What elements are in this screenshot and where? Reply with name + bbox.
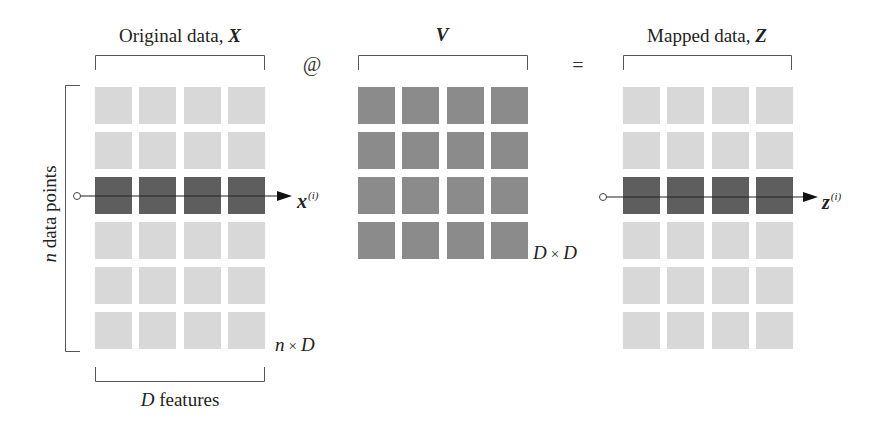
- matrix-v-dimension: D×D: [533, 242, 577, 265]
- z-row-vector-label: z(i): [822, 185, 841, 213]
- z-row-vector-sup: (i): [831, 190, 841, 202]
- dim-times: ×: [289, 338, 297, 354]
- dim-d1: D: [533, 242, 547, 263]
- matrix-v-symbol: V: [436, 24, 449, 45]
- matrix-x-title-text: Original data,: [119, 25, 228, 46]
- col-axis-var: D: [141, 389, 155, 410]
- matrix-v-title: V: [436, 24, 449, 46]
- matrix-x-title: Original data, X: [119, 25, 241, 47]
- row-axis-text: data points: [39, 165, 60, 253]
- matmul-operator: @: [303, 53, 321, 75]
- row-axis-var: n: [39, 253, 60, 263]
- row-axis-label: n data points: [39, 165, 61, 262]
- matrix-z-title: Mapped data, Z: [647, 25, 767, 47]
- x-row-vector-label: x(i): [297, 184, 318, 212]
- dim-n: n: [275, 334, 285, 355]
- matrix-z-title-text: Mapped data,: [647, 25, 755, 46]
- matrix-x-dimension: n×D: [275, 334, 315, 357]
- dim-d2: D: [563, 242, 577, 263]
- z-arrow-origin-icon: [600, 194, 607, 201]
- matrix-x-symbol: X: [228, 25, 241, 46]
- x-row-vector-sup: (i): [308, 189, 318, 201]
- matrix-z-symbol: Z: [755, 25, 767, 46]
- x-row-arrow: [74, 191, 293, 201]
- dim-times: ×: [551, 246, 559, 262]
- arrow-lines: [0, 0, 877, 426]
- x-row-vector: x: [297, 190, 307, 212]
- col-axis-text: features: [154, 389, 219, 410]
- z-row-arrow: [600, 192, 819, 202]
- dim-d: D: [301, 334, 315, 355]
- col-axis-label: D features: [141, 389, 220, 411]
- z-arrowhead-icon: [803, 192, 818, 202]
- equals-operator: =: [572, 54, 583, 76]
- z-row-vector: z: [822, 191, 830, 213]
- x-arrow-origin-icon: [74, 193, 81, 200]
- x-arrowhead-icon: [277, 191, 292, 201]
